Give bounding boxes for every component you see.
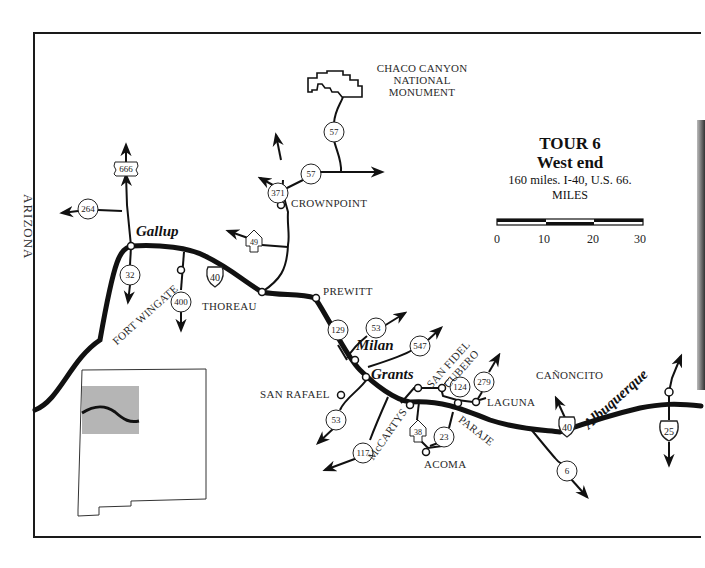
- acoma-marker: [423, 449, 430, 456]
- place-crownpoint: CROWNPOINT: [291, 197, 367, 209]
- albuquerque-marker: [665, 388, 673, 396]
- chaco-line-2: NATIONAL: [362, 74, 482, 86]
- place-thoreau: THOREAU: [202, 300, 257, 312]
- laguna-marker: [473, 399, 480, 406]
- place-canoncito: CAÑONCITO: [536, 369, 603, 381]
- milan-marker: [352, 357, 359, 364]
- route-371-label: 371: [271, 188, 285, 198]
- route-6-label: 6: [565, 466, 570, 476]
- route-38-label: 38: [414, 428, 422, 437]
- route-i40-east-label: 40: [562, 422, 572, 433]
- i25-road: [669, 356, 681, 392]
- scale-tick-20: 20: [587, 232, 599, 247]
- thoreau-marker: [259, 289, 266, 296]
- place-san-rafael: SAN RAFAEL: [260, 388, 330, 400]
- route-i25-label: 25: [664, 426, 674, 437]
- tour-title-block: TOUR 6 West end 160 miles. I-40, U.S. 66…: [500, 134, 640, 203]
- route-32-label: 32: [126, 270, 135, 280]
- us666-road: [126, 175, 131, 246]
- route-279-label: 279: [477, 377, 491, 387]
- prewitt-marker: [313, 295, 320, 302]
- tour-subtitle: West end: [500, 153, 640, 172]
- gallup-marker: [128, 243, 135, 250]
- fort-wingate-marker: [178, 267, 185, 274]
- route-53-north-label: 53: [372, 323, 382, 333]
- city-gallup: Gallup: [136, 223, 179, 240]
- city-grants: Grants: [371, 366, 414, 383]
- route-666-label: 666: [119, 164, 133, 174]
- chaco-line-1: CHACO CANYON: [362, 62, 482, 74]
- paraje-marker: [455, 400, 462, 407]
- route-400-label: 400: [174, 297, 188, 307]
- grants-marker: [363, 374, 370, 381]
- route-49-label: 49: [250, 238, 258, 247]
- scale-label: MILES: [500, 188, 640, 203]
- route-129-label: 129: [331, 325, 345, 335]
- nm264-road: [98, 210, 122, 211]
- nm129-road: [315, 298, 333, 325]
- route-53-south-label: 53: [332, 415, 342, 425]
- city-milan: Milan: [356, 337, 394, 354]
- route-264-label: 264: [81, 204, 95, 214]
- route-57-north-label: 57: [330, 127, 340, 137]
- route-23-label: 23: [440, 432, 450, 442]
- scale-bar: [497, 219, 643, 225]
- tour-number: TOUR 6: [500, 134, 640, 153]
- tour-description: 160 miles. I-40, U.S. 66.: [480, 172, 660, 188]
- place-laguna: LAGUNA: [487, 396, 535, 408]
- scale-tick-0: 0: [494, 232, 500, 247]
- san-rafael-marker: [338, 392, 345, 399]
- place-acoma: ACOMA: [424, 458, 466, 470]
- place-prewitt: PREWITT: [323, 285, 373, 297]
- san-fidel-marker: [415, 385, 422, 392]
- route-547-label: 547: [413, 341, 427, 351]
- route-map: 264 32 400 371 57 57 129 53 547 53 117 2…: [0, 0, 705, 568]
- arizona-label: ARIZONA: [20, 194, 36, 260]
- chaco-line-3: MONUMENT: [362, 86, 482, 98]
- route-i40-west-label: 40: [210, 272, 220, 283]
- scale-tick-30: 30: [634, 232, 646, 247]
- chaco-canyon-outline: [308, 71, 362, 97]
- new-mexico-inset-map: [78, 369, 206, 516]
- mccartys-marker: [407, 402, 414, 409]
- route-57-south-label: 57: [307, 169, 317, 179]
- chaco-canyon-label: CHACO CANYON NATIONAL MONUMENT: [362, 62, 482, 98]
- scale-tick-10: 10: [538, 232, 550, 247]
